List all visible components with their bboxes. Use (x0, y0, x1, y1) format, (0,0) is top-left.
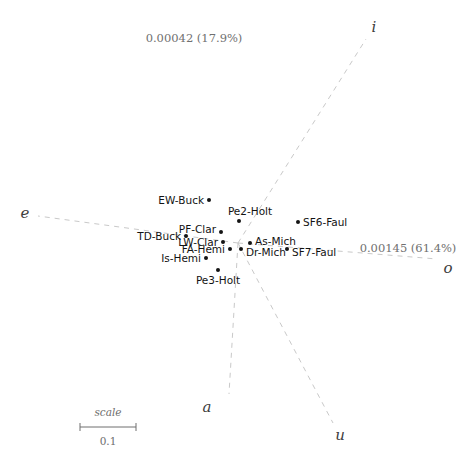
scale-bar-value: 0.1 (100, 436, 117, 447)
scatter-plot-canvas: 0.00042 (17.9%) 0.00145 (61.4%) iouae EW… (0, 0, 460, 461)
scale-bar (0, 0, 460, 461)
scale-bar-caption: scale (94, 407, 121, 418)
